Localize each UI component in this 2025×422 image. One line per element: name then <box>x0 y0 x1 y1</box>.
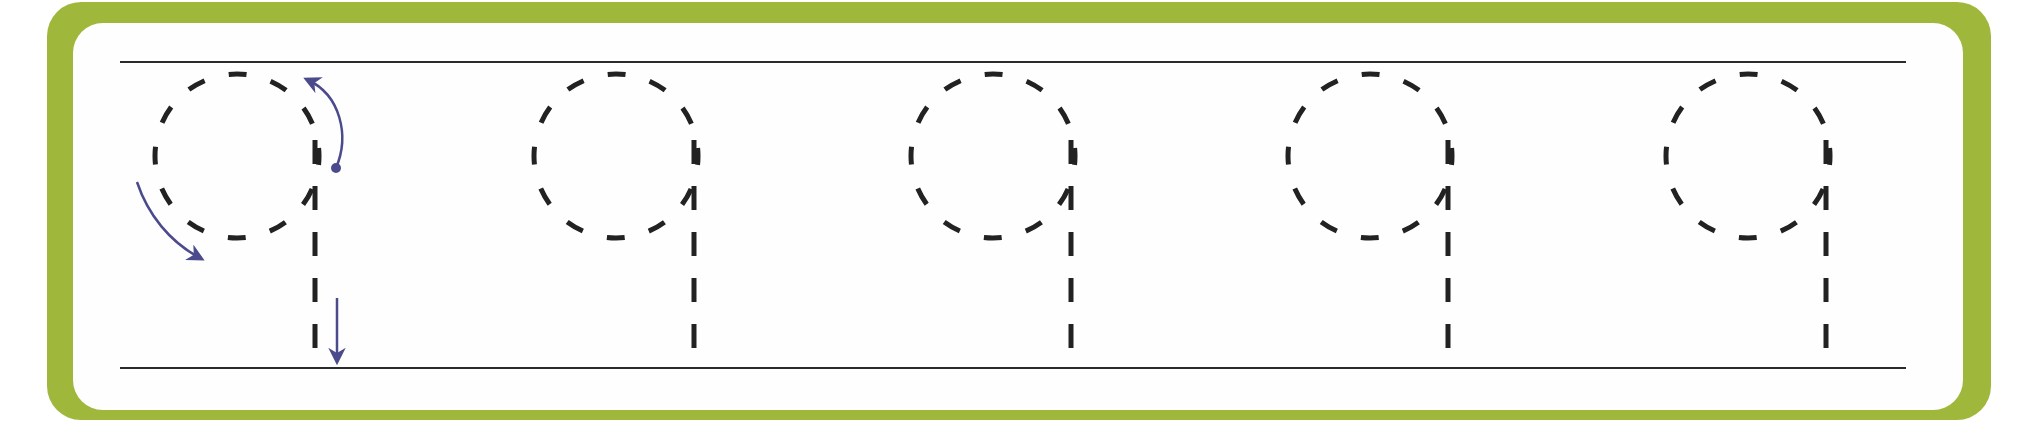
dashed-loop <box>155 74 319 238</box>
traceable-digit-9 <box>534 74 698 368</box>
dashed-loop <box>911 74 1075 238</box>
traceable-digit-9 <box>911 74 1075 368</box>
tracing-canvas <box>0 0 2025 422</box>
start-dot-icon <box>331 163 341 173</box>
curve-down-left-arrow <box>137 182 200 258</box>
dashed-loop <box>1666 74 1830 238</box>
traceable-digit-9 <box>155 74 319 368</box>
traceable-digit-9 <box>1666 74 1830 368</box>
glyph-row <box>155 74 1830 368</box>
dashed-loop <box>1288 74 1452 238</box>
traceable-digit-9 <box>1288 74 1452 368</box>
dashed-loop <box>534 74 698 238</box>
